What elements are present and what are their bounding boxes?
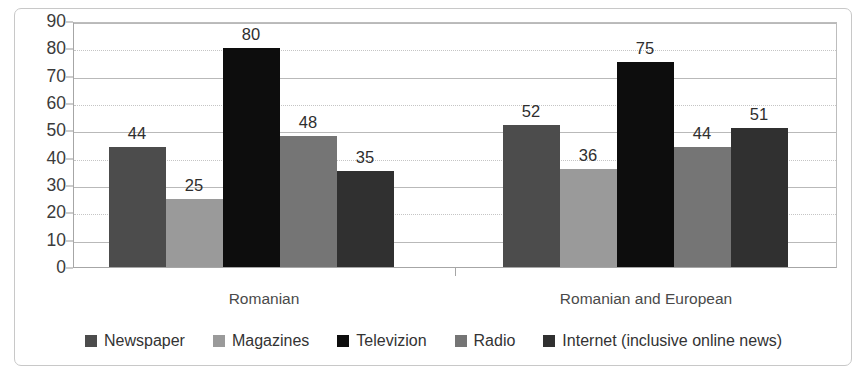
- y-axis-tick: [66, 49, 73, 50]
- legend-item: Internet (inclusive online news): [543, 333, 782, 349]
- y-axis-tick-label: 0: [22, 259, 66, 277]
- legend-item-label: Magazines: [232, 333, 309, 349]
- y-axis-tick-label: 30: [22, 177, 66, 195]
- bar: [337, 171, 394, 267]
- legend-item: Radio: [455, 333, 516, 349]
- bar: [674, 147, 731, 267]
- gridline: [74, 23, 836, 24]
- y-axis-labels: 0102030405060708090: [14, 22, 66, 268]
- legend-item: Newspaper: [85, 333, 185, 349]
- y-axis-tick: [66, 213, 73, 214]
- legend-item: Magazines: [213, 333, 309, 349]
- bar-value-label: 75: [636, 40, 654, 57]
- gridline: [74, 78, 836, 79]
- bar: [617, 62, 674, 267]
- legend-item-label: Newspaper: [104, 333, 185, 349]
- y-axis-tick-label: 60: [22, 95, 66, 113]
- y-axis-tick: [66, 240, 73, 241]
- plot-area: 44258048355236754451: [73, 22, 837, 268]
- bar: [109, 147, 166, 267]
- bar-value-label: 35: [356, 149, 374, 166]
- bar-value-label: 44: [128, 125, 146, 142]
- y-axis-tick-label: 40: [22, 150, 66, 168]
- y-axis-tick-label: 20: [22, 205, 66, 223]
- gridline: [74, 132, 836, 133]
- y-axis-tick: [66, 186, 73, 187]
- gridline: [74, 50, 836, 51]
- y-axis-tick: [66, 104, 73, 105]
- legend-item-label: Radio: [474, 333, 516, 349]
- legend-item-label: Internet (inclusive online news): [562, 333, 782, 349]
- legend-swatch-icon: [85, 335, 97, 347]
- legend-item-label: Televizion: [356, 333, 426, 349]
- legend-swatch-icon: [337, 335, 349, 347]
- legend-item: Televizion: [337, 333, 426, 349]
- bar-chart: 0102030405060708090 44258048355236754451…: [0, 0, 867, 377]
- bar-value-label: 48: [299, 114, 317, 131]
- bar: [166, 199, 223, 267]
- y-axis-tick-label: 70: [22, 68, 66, 86]
- bar: [503, 125, 560, 267]
- bar-value-label: 44: [693, 125, 711, 142]
- y-axis-tick: [66, 158, 73, 159]
- chart-legend: NewspaperMagazinesTelevizionRadioInterne…: [0, 333, 867, 349]
- bar: [731, 128, 788, 267]
- y-axis-tick-label: 10: [22, 232, 66, 250]
- y-axis-tick: [66, 22, 73, 23]
- bar-value-label: 51: [750, 106, 768, 123]
- y-axis-tick-label: 50: [22, 123, 66, 141]
- bar-value-label: 80: [242, 26, 260, 43]
- legend-swatch-icon: [543, 335, 555, 347]
- y-axis-tick: [66, 131, 73, 132]
- x-axis-category-label: Romanian: [229, 290, 300, 308]
- bar: [223, 48, 280, 267]
- y-axis-tick-label: 90: [22, 13, 66, 31]
- x-axis-tick: [455, 268, 456, 276]
- legend-swatch-icon: [455, 335, 467, 347]
- bar: [280, 136, 337, 267]
- y-axis-tick: [66, 76, 73, 77]
- y-axis-tick-label: 80: [22, 41, 66, 59]
- bar-value-label: 36: [579, 147, 597, 164]
- bar-value-label: 25: [185, 177, 203, 194]
- x-axis-category-label: Romanian and European: [560, 290, 732, 308]
- bar: [560, 169, 617, 267]
- legend-swatch-icon: [213, 335, 225, 347]
- y-axis-tick: [66, 268, 73, 269]
- bar-value-label: 52: [522, 103, 540, 120]
- gridline: [74, 105, 836, 106]
